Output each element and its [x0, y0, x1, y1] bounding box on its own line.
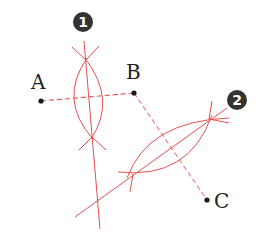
- perpendicular-bisector-1: [72, 41, 106, 229]
- step-badge-2: 2: [227, 90, 247, 110]
- label-c: C: [214, 189, 229, 213]
- badge-number: 1: [78, 14, 88, 30]
- arc-right: [85, 58, 103, 139]
- arc-tick: [72, 47, 86, 60]
- segment-bc: [134, 93, 207, 200]
- arc-left: [74, 58, 93, 139]
- label-b: B: [126, 60, 141, 84]
- construction-figure: A B C 1 2: [0, 0, 264, 239]
- bisector-line-2: [75, 108, 227, 217]
- arc-tick: [79, 137, 92, 150]
- diagram-canvas: A B C 1 2: [0, 0, 264, 239]
- badge-number: 2: [232, 92, 242, 108]
- segment-ab: [41, 93, 134, 101]
- point-c: [204, 197, 209, 202]
- step-badge-1: 1: [73, 12, 93, 32]
- arc-lower: [118, 115, 212, 173]
- arc-tick: [92, 137, 106, 150]
- point-a: [38, 98, 43, 103]
- label-a: A: [30, 70, 46, 94]
- point-b: [131, 90, 136, 95]
- arc-tick: [86, 46, 99, 60]
- arc-tick: [209, 119, 229, 123]
